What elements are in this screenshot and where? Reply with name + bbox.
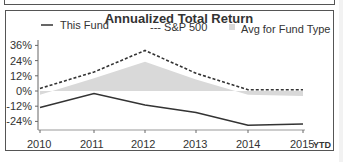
y-tick-label: -24% xyxy=(6,115,32,127)
x-tick-label: 2014 xyxy=(236,138,260,150)
y-axis: 36%24%12%0%-12%-24% xyxy=(6,39,38,130)
y-tick-label: 0% xyxy=(16,85,32,97)
this-fund-line xyxy=(40,94,303,126)
y-tick-label: 12% xyxy=(10,70,32,82)
chart-svg: Annualized Total Return This Fund --- S&… xyxy=(0,0,343,162)
x-tick-label: 2011 xyxy=(80,138,104,150)
y-tick-label: -12% xyxy=(6,100,32,112)
legend-avg-swatch xyxy=(229,24,235,30)
x-tick-label: 2015 xyxy=(290,138,314,150)
x-ytd-label: YTD xyxy=(313,140,332,150)
x-axis: 201020112012201320142015 YTD xyxy=(27,130,332,150)
legend-fund-label: This Fund xyxy=(60,19,109,31)
y-tick-label: 36% xyxy=(10,39,32,51)
x-tick-label: 2010 xyxy=(27,138,51,150)
x-tick-label: 2013 xyxy=(183,138,207,150)
x-tick-label: 2012 xyxy=(131,138,155,150)
y-tick-label: 24% xyxy=(10,55,32,67)
legend-avg-label: Avg for Fund Type xyxy=(241,23,330,35)
plot-area xyxy=(40,50,303,125)
legend: This Fund --- S&P 500 Avg for Fund Type xyxy=(41,19,330,35)
legend-sp-label: --- S&P 500 xyxy=(150,21,207,33)
avg-fund-type-area xyxy=(40,62,303,96)
